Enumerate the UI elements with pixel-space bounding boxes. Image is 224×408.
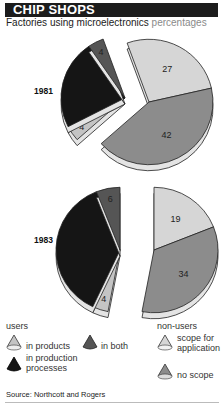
slice-label: 34 xyxy=(179,269,189,279)
cone-icon-in-both xyxy=(82,334,98,352)
cone-icon-scope-for-application xyxy=(157,334,173,352)
cone-icon-no-scope xyxy=(157,363,173,381)
slice-label: 19 xyxy=(171,214,181,224)
legend-in-both: in both xyxy=(101,341,128,351)
slice-label: 4 xyxy=(101,294,106,304)
pie-1983: 193446 xyxy=(56,187,218,318)
slice-label: 42 xyxy=(162,130,172,140)
slice-label: 27 xyxy=(162,64,172,74)
bottom-rule xyxy=(5,402,219,403)
legend-users-heading: users xyxy=(6,321,28,331)
pie-1981: 274244 xyxy=(61,39,213,171)
legend-nonusers-heading: non-users xyxy=(157,321,197,331)
cone-icon-in-products xyxy=(6,334,22,352)
source-note: Source: Northcott and Rogers xyxy=(6,390,105,399)
slice-label: 4 xyxy=(99,47,104,57)
chart-figure: CHIP SHOPS Factories using microelectron… xyxy=(0,0,224,408)
legend-in-products: in products xyxy=(26,341,70,351)
year-label-1981: 1981 xyxy=(34,86,53,96)
slice-label: 6 xyxy=(108,194,113,204)
legend-in-production-processes: in production processes xyxy=(26,353,86,373)
cone-icon-in-production-processes xyxy=(6,356,22,374)
legend-no-scope: no scope xyxy=(177,370,214,380)
legend-scope-for-application: scope for application xyxy=(177,333,223,353)
year-label-1983: 1983 xyxy=(34,235,53,245)
pie-charts: 274244 193446 1981 1983 xyxy=(0,0,224,330)
